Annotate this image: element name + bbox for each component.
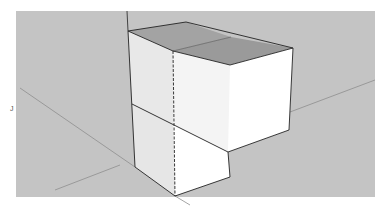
axis-diagonal-left <box>20 88 135 167</box>
axis-diagonal-bottom <box>175 196 190 205</box>
vertical-axis <box>127 11 128 31</box>
axis-faint-lower <box>55 165 120 190</box>
model-canvas[interactable] <box>0 0 386 213</box>
axis-diagonal-right <box>290 80 375 112</box>
upper-right-front <box>228 48 293 152</box>
axis-marker-label: J <box>10 105 14 112</box>
